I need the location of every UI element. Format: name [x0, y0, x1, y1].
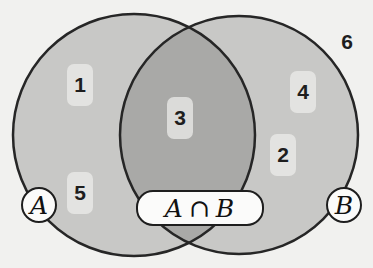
region-b-only-4: 4	[290, 71, 316, 113]
region-b-only-2: 2	[270, 134, 296, 176]
set-b-label: B	[326, 187, 362, 223]
intersection-label: A ∩ B	[136, 190, 264, 226]
set-a-label: A	[21, 187, 57, 223]
venn-diagram: 1 5 3 4 2 6 A B A ∩ B	[0, 0, 373, 268]
region-intersection-3: 3	[167, 97, 193, 139]
intersection-symbol: ∩	[189, 196, 211, 221]
region-outside-6: 6	[334, 21, 360, 63]
region-a-only-5: 5	[67, 172, 93, 214]
intersection-label-right: B	[216, 196, 235, 221]
intersection-label-left: A	[165, 196, 184, 221]
region-a-only-1: 1	[67, 64, 93, 106]
